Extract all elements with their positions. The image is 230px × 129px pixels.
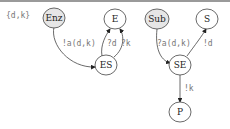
node-s: S xyxy=(196,9,218,29)
node-es: ES xyxy=(95,55,117,75)
channel-set-label: {d,k} xyxy=(6,11,30,20)
edge-label-se-p: !k xyxy=(184,84,194,93)
edge-label-sub-se: ?a(d,k) xyxy=(157,39,191,48)
node-label-e: E xyxy=(112,14,119,24)
node-enz: Enz xyxy=(43,8,65,28)
node-p: P xyxy=(169,102,191,122)
node-e: E xyxy=(104,9,126,29)
node-label-s: S xyxy=(204,14,210,24)
node-label-es: ES xyxy=(100,60,113,70)
edge-label-enz-es: !a(d,k) xyxy=(62,39,96,48)
node-label-enz: Enz xyxy=(45,13,62,23)
edge-label-es-e-k: ?k xyxy=(121,39,131,48)
edge-label-se-s: !d xyxy=(203,39,213,48)
process-diagram: {d,k} !a(d,k) ?d ?k ?a(d,k) !d !k Enz E … xyxy=(0,0,230,129)
edge-label-es-e-d: ?d xyxy=(107,39,117,48)
node-label-se: SE xyxy=(174,60,187,70)
node-label-p: P xyxy=(177,107,183,117)
node-se: SE xyxy=(169,55,191,75)
node-sub: Sub xyxy=(145,9,169,29)
node-label-sub: Sub xyxy=(148,14,166,24)
